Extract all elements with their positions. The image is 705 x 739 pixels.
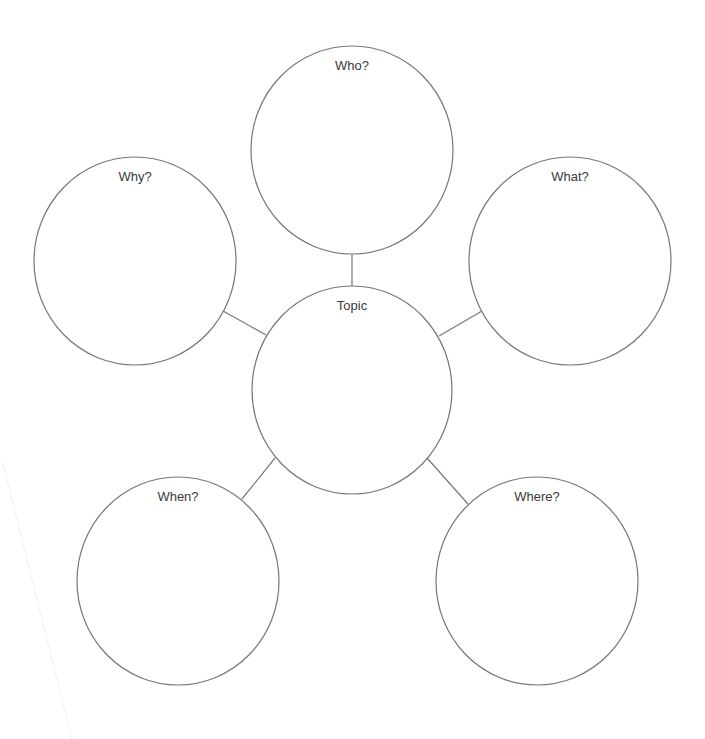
when-bubble	[77, 477, 279, 685]
when-bubble-label: When?	[118, 489, 238, 504]
scan-artifact-line	[2, 460, 72, 739]
where-bubble	[436, 477, 638, 685]
who-bubble-label: Who?	[292, 58, 412, 73]
connector-why-topic	[223, 311, 266, 335]
why-bubble	[34, 157, 236, 365]
bubble-map-diagram	[0, 0, 705, 739]
what-bubble	[469, 157, 671, 365]
connector-what-topic	[439, 311, 482, 336]
who-bubble	[251, 46, 453, 254]
what-bubble-label: What?	[510, 169, 630, 184]
connector-where-topic	[427, 458, 468, 504]
where-bubble-label: Where?	[477, 489, 597, 504]
bubbles	[34, 46, 671, 685]
center-topic-label: Topic	[292, 298, 412, 313]
connector-lines	[223, 254, 482, 504]
why-bubble-label: Why?	[75, 169, 195, 184]
connector-when-topic	[242, 458, 275, 499]
topic-bubble	[252, 286, 452, 494]
